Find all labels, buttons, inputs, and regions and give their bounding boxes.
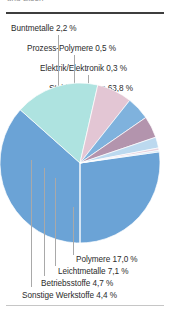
label-polymere: Polymere 17,0 % — [76, 255, 138, 265]
label-leichtmetalle: Leichtmetalle 7,1 % — [58, 267, 129, 277]
pie-chart-figure: und Eisen Buntmetalle 2,2 % Prozess-Poly… — [0, 0, 170, 321]
leader-line-sonstige-werkstoffe — [31, 160, 32, 287]
pie-slices — [0, 83, 160, 243]
leader-line-betriebsstoffe — [44, 168, 45, 276]
leader-line-polymere — [73, 207, 74, 255]
leader-line-leichtmetalle — [55, 178, 56, 266]
bottom-divider-rule — [6, 305, 164, 306]
label-sonstige-werkstoffe: Sonstige Werkstoffe 4,4 % — [22, 291, 117, 301]
label-betriebsstoffe: Betriebsstoffe 4,7 % — [41, 279, 113, 289]
